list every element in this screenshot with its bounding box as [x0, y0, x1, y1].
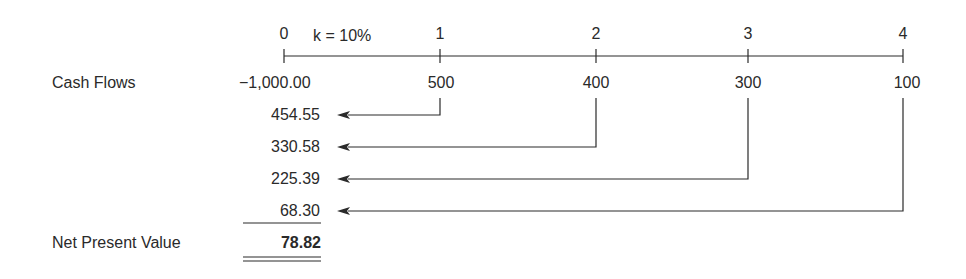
cash-flow-1: 500 [428, 74, 455, 92]
cash-flows-label: Cash Flows [52, 74, 136, 92]
period-label-3: 3 [744, 25, 753, 43]
period-label-2: 2 [592, 25, 601, 43]
present-value-4: 68.30 [280, 202, 320, 220]
npv-label: Net Present Value [52, 234, 181, 252]
present-value-3: 225.39 [271, 170, 320, 188]
period-label-0: 0 [280, 25, 289, 43]
cash-flow-4: 100 [894, 74, 921, 92]
rate-label: k = 10% [313, 27, 371, 45]
discount-arrow-3 [348, 98, 748, 179]
npv-value: 78.82 [281, 234, 321, 252]
period-label-4: 4 [899, 25, 908, 43]
cash-flow-3: 300 [735, 74, 762, 92]
discount-arrow-2 [348, 98, 596, 147]
discount-arrow-1 [348, 98, 440, 115]
present-value-1: 454.55 [271, 106, 320, 124]
cash-flow-0: −1,000.00 [239, 74, 311, 92]
present-value-2: 330.58 [271, 138, 320, 156]
cash-flow-2: 400 [583, 74, 610, 92]
period-label-1: 1 [436, 25, 445, 43]
